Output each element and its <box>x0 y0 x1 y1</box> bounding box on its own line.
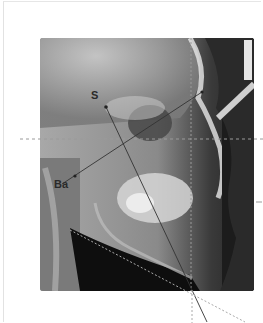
landmark-label-s: S <box>91 89 98 101</box>
cephalometric-tracing <box>0 0 263 323</box>
s-gn-line <box>106 107 207 322</box>
mandibular-plane-line <box>70 230 245 322</box>
landmark-n-dot <box>200 90 203 93</box>
landmark-s-dot <box>104 105 108 109</box>
landmark-label-ba: Ba <box>54 178 68 190</box>
ba-n-line <box>62 92 202 184</box>
landmark-ba-dot <box>73 174 76 177</box>
